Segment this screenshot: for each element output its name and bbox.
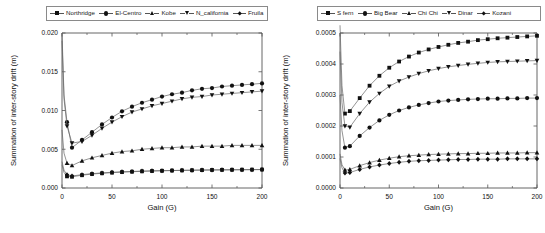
- data-point-marker: [140, 101, 144, 105]
- data-point-marker: [436, 99, 440, 103]
- svg-text:150: 150: [482, 193, 493, 200]
- svg-text:100: 100: [433, 193, 444, 200]
- data-point-marker: [476, 157, 480, 162]
- chart-panel-right: S fernBig BearChi ChiDinarKozani 0501001…: [272, 0, 545, 233]
- data-point-marker: [437, 45, 441, 49]
- svg-text:0.015: 0.015: [41, 68, 58, 75]
- svg-text:Summation of inter-story drift: Summation of inter-story drift (m): [9, 55, 18, 166]
- axes-frame: 0501001502000.0000.0050.0100.0150.020Gai…: [9, 29, 268, 212]
- data-point-marker: [387, 85, 392, 89]
- svg-text:Gain (G): Gain (G): [424, 203, 454, 212]
- data-point-marker: [200, 87, 204, 91]
- data-point-marker: [417, 51, 421, 55]
- data-point-marker: [446, 157, 450, 162]
- data-point-marker: [65, 161, 70, 165]
- plot-svg-left: 0501001502000.0000.0050.0100.0150.020Gai…: [0, 0, 272, 233]
- svg-text:0.0003: 0.0003: [316, 91, 337, 98]
- data-point-marker: [407, 159, 411, 164]
- data-point-marker: [348, 109, 352, 113]
- data-point-marker: [377, 163, 381, 168]
- data-point-marker: [387, 161, 391, 166]
- series-dinar: [340, 52, 539, 130]
- data-point-marker: [466, 40, 470, 44]
- data-point-marker: [456, 98, 460, 102]
- data-point-marker: [100, 127, 105, 131]
- data-point-marker: [190, 88, 194, 92]
- data-point-marker: [446, 43, 450, 47]
- data-point-marker: [397, 108, 401, 112]
- data-point-marker: [358, 134, 362, 138]
- data-point-marker: [348, 144, 352, 148]
- data-point-marker: [515, 96, 519, 100]
- axes-frame: 0501001502000.00000.00010.00020.00030.00…: [281, 29, 543, 212]
- series-n-california: [62, 41, 264, 146]
- data-point-marker: [525, 96, 529, 100]
- data-point-marker: [358, 96, 362, 100]
- data-point-marker: [65, 124, 70, 128]
- svg-text:200: 200: [531, 193, 542, 200]
- data-point-marker: [260, 81, 264, 85]
- data-point-marker: [407, 105, 411, 109]
- data-point-marker: [120, 109, 124, 113]
- data-point-marker: [525, 35, 529, 39]
- svg-text:Gain (G): Gain (G): [147, 203, 177, 212]
- data-point-marker: [417, 103, 421, 107]
- plot-svg-right: 0501001502000.00000.00010.00020.00030.00…: [272, 0, 545, 233]
- svg-text:0.010: 0.010: [41, 107, 58, 114]
- data-point-marker: [446, 98, 450, 102]
- svg-text:50: 50: [386, 193, 394, 200]
- data-point-marker: [466, 97, 470, 101]
- svg-text:0.0000: 0.0000: [316, 184, 337, 191]
- data-point-marker: [495, 157, 499, 162]
- data-point-marker: [397, 79, 402, 83]
- data-point-marker: [387, 113, 391, 117]
- data-point-marker: [466, 157, 470, 162]
- data-point-marker: [130, 110, 135, 114]
- data-point-marker: [180, 91, 184, 95]
- data-point-marker: [230, 84, 234, 88]
- data-point-marker: [110, 115, 114, 119]
- svg-text:200: 200: [256, 193, 267, 200]
- data-point-marker: [427, 101, 431, 105]
- data-point-marker: [535, 96, 539, 100]
- data-point-marker: [515, 156, 519, 161]
- data-point-marker: [70, 163, 75, 167]
- svg-text:0.000: 0.000: [41, 184, 58, 191]
- data-point-marker: [343, 146, 347, 150]
- svg-text:0.0005: 0.0005: [316, 29, 337, 36]
- data-point-marker: [240, 83, 244, 87]
- svg-text:100: 100: [156, 193, 167, 200]
- svg-text:50: 50: [108, 193, 116, 200]
- data-point-marker: [378, 74, 382, 78]
- data-point-marker: [525, 156, 529, 161]
- data-point-marker: [160, 94, 164, 98]
- svg-text:0.0004: 0.0004: [316, 60, 337, 67]
- data-point-marker: [397, 60, 401, 64]
- data-point-marker: [120, 115, 125, 119]
- data-point-marker: [100, 122, 104, 126]
- data-point-marker: [70, 141, 75, 145]
- data-point-marker: [150, 98, 154, 102]
- data-point-marker: [417, 158, 421, 163]
- data-point-marker: [535, 34, 539, 38]
- series-el-centro: [62, 33, 264, 150]
- data-point-marker: [426, 158, 430, 163]
- data-point-marker: [456, 157, 460, 162]
- data-point-marker: [515, 35, 519, 39]
- svg-text:0: 0: [60, 193, 64, 200]
- plot-area-right: 0501001502000.00000.00010.00020.00030.00…: [272, 0, 545, 233]
- data-point-marker: [407, 55, 411, 59]
- data-point-marker: [130, 105, 134, 109]
- data-point-marker: [170, 92, 174, 96]
- series-fruila: [62, 162, 264, 179]
- data-point-marker: [486, 37, 490, 41]
- data-point-marker: [250, 82, 254, 86]
- svg-text:0.0002: 0.0002: [316, 122, 337, 129]
- svg-text:0.005: 0.005: [41, 146, 58, 153]
- data-point-marker: [496, 36, 500, 40]
- data-point-marker: [486, 157, 490, 162]
- data-point-marker: [110, 120, 115, 124]
- data-point-marker: [397, 160, 401, 165]
- svg-text:150: 150: [206, 193, 217, 200]
- data-point-marker: [456, 41, 460, 45]
